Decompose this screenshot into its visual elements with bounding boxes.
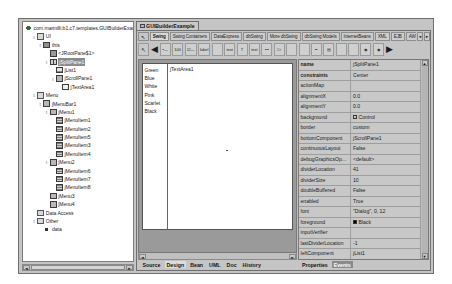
- property-row[interactable]: alignmentX0.0: [299, 92, 420, 103]
- palette-tab-swing-containers[interactable]: Swing Containers: [170, 32, 210, 41]
- palette-tab-dataexpress[interactable]: DataExpress: [211, 32, 242, 41]
- view-tab-history[interactable]: History: [241, 261, 262, 268]
- jtable-tool[interactable]: [336, 43, 347, 56]
- property-vscrollbar[interactable]: ▲ ▼: [420, 60, 428, 259]
- palette-tab-dbswing[interactable]: dbSwing: [243, 32, 266, 41]
- property-row[interactable]: bottomComponentjScrollPane1: [299, 134, 420, 145]
- list-item[interactable]: Pink: [145, 91, 166, 99]
- property-row[interactable]: lastDividerLocation-1: [299, 239, 420, 250]
- tree-node-jmenu3[interactable]: jMenu3: [25, 192, 132, 200]
- property-row[interactable]: constraintsCenter: [299, 71, 420, 82]
- property-row[interactable]: actionMap: [299, 81, 420, 92]
- palette-scroll-left-button[interactable]: ◄: [417, 32, 423, 41]
- tree-node-data[interactable]: data: [25, 225, 132, 233]
- canvas-scroll-left-icon[interactable]: ◄: [139, 254, 146, 259]
- list-item[interactable]: Scarlet: [145, 99, 166, 107]
- jtextfield-tool[interactable]: [212, 43, 223, 56]
- palette-tab-dbswing-models[interactable]: dbSwing Models: [302, 32, 340, 41]
- property-value[interactable]: Center: [351, 71, 420, 81]
- view-tab-doc[interactable]: Doc: [225, 261, 238, 268]
- tree-node-other[interactable]: ♁Other: [25, 217, 132, 225]
- tree-node-jtextarea1[interactable]: jTextArea1: [25, 83, 132, 91]
- list-item[interactable]: Green: [145, 66, 166, 74]
- jcheckbox-tool[interactable]: ☑—: [185, 43, 197, 56]
- property-value[interactable]: 10: [351, 176, 420, 186]
- canvas-scroll-right-icon[interactable]: ►: [289, 254, 296, 259]
- palette-scroll-right-button[interactable]: ►: [424, 32, 430, 41]
- jcheckboxmenuitem-tool[interactable]: ◉: [373, 43, 384, 56]
- view-tab-bean[interactable]: Bean: [189, 261, 205, 268]
- jtextpane-tool[interactable]: T: [237, 43, 248, 56]
- jlabel-tool[interactable]: label: [198, 43, 210, 56]
- property-value[interactable]: 0.0: [351, 92, 420, 102]
- jspinner-tool[interactable]: □↕: [274, 43, 285, 56]
- inspector-tab-properties[interactable]: Properties: [300, 261, 330, 268]
- property-scroll-down-icon[interactable]: ▼: [422, 253, 428, 259]
- property-table[interactable]: namejSplitPane1constraintsCenteractionMa…: [298, 59, 429, 260]
- list-item[interactable]: Black: [145, 107, 166, 115]
- tree-node-menu[interactable]: ♁Menu: [25, 91, 132, 99]
- palette-tab-swing[interactable]: Swing: [150, 32, 169, 41]
- property-value[interactable]: custom: [351, 123, 420, 133]
- property-row[interactable]: alignmentY0.0: [299, 102, 420, 113]
- form-preview[interactable]: GreenBlueWhitePinkScarletBlack jTextArea…: [142, 63, 293, 230]
- property-value[interactable]: 41: [351, 165, 420, 175]
- tree-node-jmenuitem1[interactable]: jMenuItem1: [25, 116, 132, 124]
- property-value[interactable]: jList1: [351, 249, 420, 259]
- jbutton-tool[interactable]: ▪—: [160, 43, 171, 56]
- property-value[interactable]: False: [351, 144, 420, 154]
- palette-selection-tool[interactable]: ↖: [138, 32, 149, 41]
- palette-tab-more-dbswing[interactable]: More dbSwing: [267, 32, 301, 41]
- canvas-hscrollbar[interactable]: ◄ ►: [138, 253, 297, 260]
- tree-node-jlist1[interactable]: jList1: [25, 66, 132, 74]
- scroll-left-icon[interactable]: ◄: [23, 265, 30, 270]
- property-value[interactable]: -1: [351, 239, 420, 249]
- property-row[interactable]: inputVerifier: [299, 228, 420, 239]
- property-value[interactable]: <default>: [351, 155, 420, 165]
- scroll-thumb[interactable]: [31, 265, 125, 270]
- jeditorpane-tool[interactable]: text: [249, 43, 260, 56]
- property-row[interactable]: bordercustom: [299, 123, 420, 134]
- tree-node-jmenuitem3[interactable]: jMenuItem3: [25, 141, 132, 149]
- property-row[interactable]: backgroundControl: [299, 113, 420, 124]
- structure-hscrollbar[interactable]: ◄ ►: [22, 264, 134, 271]
- scroll-right-icon[interactable]: ►: [126, 265, 133, 270]
- palette-tab-awt[interactable]: AWT: [406, 32, 416, 41]
- property-value[interactable]: 0.0: [351, 102, 420, 112]
- tree-root-row[interactable]: com.marinilli.b1.c7.templates.GUIBuilder…: [25, 24, 132, 32]
- property-row[interactable]: font"Dialog", 0, 12: [299, 207, 420, 218]
- tree-node-jmenuitem5[interactable]: jMenuItem5: [25, 133, 132, 141]
- structure-tree[interactable]: com.marinilli.b1.c7.templates.GUIBuilder…: [22, 21, 134, 262]
- tree-node-jmenu2[interactable]: ♁jMenu2: [25, 158, 132, 166]
- jtree-tool[interactable]: [348, 43, 359, 56]
- tree-node-jmenu4[interactable]: jMenu4: [25, 200, 132, 208]
- jtextarea-tool[interactable]: text: [224, 43, 235, 56]
- jtogglebutton-tool[interactable]: 100: [172, 43, 183, 56]
- palette-pointer-tool[interactable]: ↖: [138, 43, 149, 56]
- property-row[interactable]: foregroundBlack: [299, 218, 420, 229]
- tree-node-jmenuitem7[interactable]: jMenuItem7: [25, 175, 132, 183]
- palette-prev-icon[interactable]: ◀: [150, 45, 158, 54]
- list-item[interactable]: White: [145, 82, 166, 90]
- property-row[interactable]: dividerLocation41: [299, 165, 420, 176]
- property-value[interactable]: Control: [351, 113, 420, 123]
- jlist-tool[interactable]: [286, 43, 297, 56]
- inspector-tab-events[interactable]: Events: [332, 261, 353, 268]
- list-item[interactable]: Blue: [145, 74, 166, 82]
- property-row[interactable]: continuousLayoutFalse: [299, 144, 420, 155]
- tree-node-jmenu1[interactable]: ♁jMenu1: [25, 108, 132, 116]
- jcombobox-tool[interactable]: [299, 43, 310, 56]
- tree-node-ui[interactable]: ♁UI: [25, 32, 132, 40]
- view-tab-uml[interactable]: UML: [208, 261, 222, 268]
- property-value[interactable]: False: [351, 186, 420, 196]
- document-tab-guibuilderexample[interactable]: GUIBuilderExample: [136, 21, 199, 30]
- palette-tab-xml[interactable]: XML: [375, 32, 390, 41]
- property-scroll-track[interactable]: [422, 66, 428, 253]
- tree-node-jscrollpane1[interactable]: ♁jScrollPane1: [25, 74, 132, 82]
- tree-node--jrootpane-1-[interactable]: <JRootPane$1>: [25, 49, 132, 57]
- jtextarea1-preview[interactable]: jTextArea1: [168, 64, 292, 229]
- jradiobutton-tool[interactable]: ◉: [360, 43, 371, 56]
- view-tab-source[interactable]: Source: [141, 261, 162, 268]
- property-row[interactable]: doubleBufferedFalse: [299, 186, 420, 197]
- view-tab-design[interactable]: Design: [165, 261, 186, 268]
